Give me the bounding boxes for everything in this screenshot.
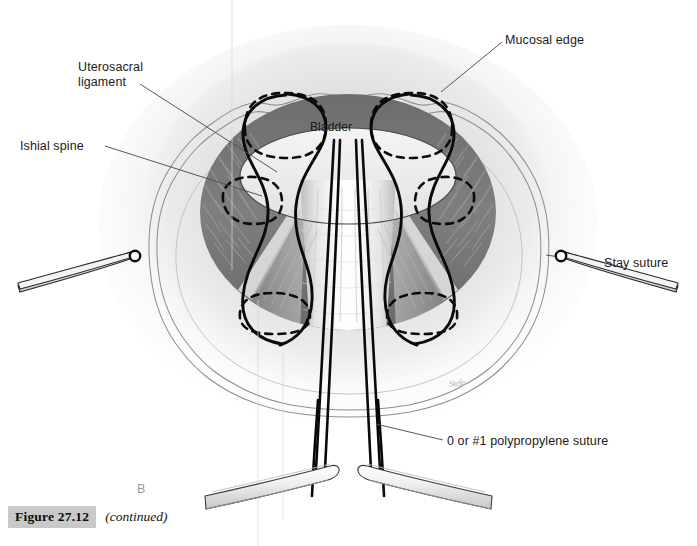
figure-continued-note: (continued) — [105, 509, 167, 525]
label-bladder: Bladder — [310, 120, 352, 134]
panel-letter: B — [137, 482, 145, 496]
leader-polypropylene — [376, 424, 443, 440]
figure-page: Mucosal edge Uterosacral ligament Ishial… — [0, 0, 697, 546]
figure-number: Figure 27.12 — [8, 506, 96, 528]
label-ishial-spine: Ishial spine — [20, 139, 84, 154]
label-uterosacral-ligament: Uterosacral ligament — [78, 60, 143, 90]
label-polypropylene-suture: 0 or #1 polypropylene suture — [447, 434, 608, 449]
clamp-right — [358, 464, 492, 509]
clamp-left — [205, 464, 339, 509]
artist-signature: Stefa — [448, 377, 465, 389]
label-stay-suture: Stay suture — [604, 256, 668, 271]
figure-caption: Figure 27.12 (continued) — [8, 506, 167, 528]
label-mucosal-edge: Mucosal edge — [505, 33, 584, 48]
